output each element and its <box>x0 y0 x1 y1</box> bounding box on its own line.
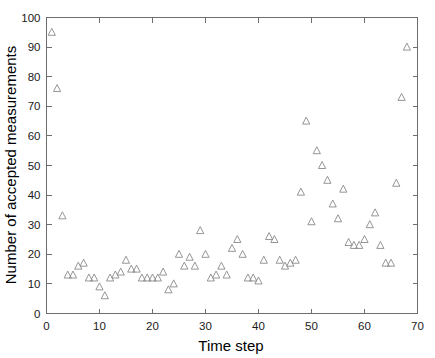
data-point <box>96 283 103 290</box>
data-point <box>202 250 209 257</box>
data-point <box>181 262 188 269</box>
y-tick-label: 0 <box>34 308 40 320</box>
data-point <box>377 241 384 248</box>
y-tick-label: 100 <box>21 12 40 24</box>
scatter-plot-figure: 0102030405060708090100 010203040506070 T… <box>0 0 435 358</box>
x-tick-label: 10 <box>93 320 106 332</box>
x-tick-label: 20 <box>146 320 159 332</box>
data-point <box>393 179 400 186</box>
data-point <box>297 188 304 195</box>
data-point <box>366 221 373 228</box>
y-axis-ticks: 0102030405060708090100 <box>21 12 417 320</box>
plot-canvas: 0102030405060708090100 010203040506070 T… <box>0 0 435 358</box>
y-tick-label: 90 <box>28 41 41 53</box>
data-point <box>48 28 55 35</box>
y-axis-title: Number of accepted measurements <box>2 46 19 284</box>
data-point <box>175 250 182 257</box>
data-point <box>276 256 283 263</box>
y-tick-label: 10 <box>28 278 41 290</box>
data-point <box>334 215 341 222</box>
x-tick-label: 50 <box>305 320 318 332</box>
data-point <box>266 233 273 240</box>
data-point <box>54 85 61 92</box>
data-point <box>228 244 235 251</box>
data-point <box>260 256 267 263</box>
x-tick-label: 30 <box>199 320 212 332</box>
data-point <box>117 268 124 275</box>
x-tick-label: 60 <box>358 320 371 332</box>
data-point <box>292 256 299 263</box>
data-point <box>271 236 278 243</box>
data-point <box>75 262 82 269</box>
data-point <box>403 43 410 50</box>
data-point <box>319 162 326 169</box>
y-tick-label: 20 <box>28 248 41 260</box>
data-point <box>361 236 368 243</box>
data-point <box>372 209 379 216</box>
data-point <box>101 292 108 299</box>
data-point <box>207 274 214 281</box>
data-point <box>287 259 294 266</box>
data-point <box>398 93 405 100</box>
x-axis-title: Time step <box>198 337 263 354</box>
data-point <box>186 253 193 260</box>
data-point-markers <box>48 28 410 298</box>
data-point <box>197 227 204 234</box>
data-point <box>340 185 347 192</box>
y-tick-label: 50 <box>28 160 41 172</box>
data-point <box>255 277 262 284</box>
data-point <box>324 176 331 183</box>
data-point <box>313 147 320 154</box>
y-tick-label: 60 <box>28 130 41 142</box>
y-tick-label: 70 <box>28 100 41 112</box>
data-point <box>223 271 230 278</box>
data-point <box>213 271 220 278</box>
data-point <box>107 274 114 281</box>
x-tick-label: 70 <box>411 320 424 332</box>
y-tick-label: 40 <box>28 189 41 201</box>
data-point <box>59 212 66 219</box>
data-point <box>308 218 315 225</box>
y-tick-label: 30 <box>28 219 41 231</box>
data-point <box>122 256 129 263</box>
data-point <box>234 236 241 243</box>
x-tick-label: 0 <box>43 320 49 332</box>
data-point <box>80 259 87 266</box>
y-tick-label: 80 <box>28 71 41 83</box>
data-point <box>112 271 119 278</box>
data-point <box>170 280 177 287</box>
x-tick-label: 40 <box>252 320 265 332</box>
data-point <box>239 250 246 257</box>
data-point <box>303 117 310 124</box>
data-point <box>191 262 198 269</box>
plot-axes-frame <box>47 18 418 314</box>
data-point <box>345 238 352 245</box>
data-point <box>160 268 167 275</box>
data-point <box>218 262 225 269</box>
data-point <box>329 200 336 207</box>
